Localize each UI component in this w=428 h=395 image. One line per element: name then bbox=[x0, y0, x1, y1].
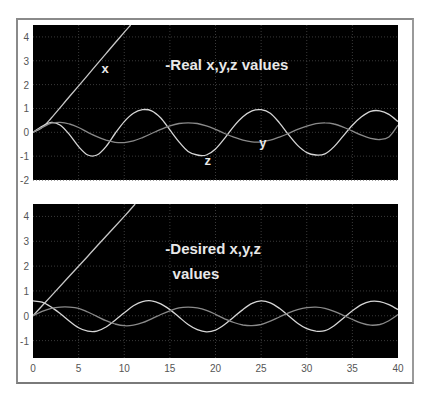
annotation-label: x bbox=[101, 61, 109, 76]
y-tick-label: 0 bbox=[23, 127, 29, 138]
y-tick-label: 1 bbox=[23, 103, 29, 114]
y-tick-label: 1 bbox=[23, 286, 29, 297]
subplot-1: -2-101234-Real x,y,z valuesxyz bbox=[20, 25, 398, 186]
x-tick-label: 20 bbox=[210, 363, 222, 374]
y-tick-label: -1 bbox=[20, 336, 29, 347]
y-tick-label: 2 bbox=[23, 80, 29, 91]
x-tick-label: 5 bbox=[76, 363, 82, 374]
y-tick-label: 4 bbox=[23, 211, 29, 222]
x-tick-label: 25 bbox=[256, 363, 268, 374]
x-tick-label: 35 bbox=[347, 363, 359, 374]
plot-area bbox=[33, 25, 398, 180]
y-tick-label: 4 bbox=[23, 32, 29, 43]
y-tick-label: 3 bbox=[23, 236, 29, 247]
y-tick-label: 2 bbox=[23, 261, 29, 272]
x-tick-label: 40 bbox=[392, 363, 404, 374]
y-tick-label: -2 bbox=[20, 175, 29, 186]
chart-canvas: -2-101234-Real x,y,z valuesxyz-101234051… bbox=[0, 0, 428, 395]
annotation-label: -Real x,y,z values bbox=[165, 56, 288, 73]
y-tick-label: 0 bbox=[23, 311, 29, 322]
annotation-label: -Desired x,y,z bbox=[165, 240, 261, 257]
x-tick-label: 30 bbox=[301, 363, 313, 374]
x-tick-label: 15 bbox=[164, 363, 176, 374]
y-tick-label: -1 bbox=[20, 151, 29, 162]
x-tick-label: 0 bbox=[30, 363, 36, 374]
x-tick-label: 10 bbox=[119, 363, 131, 374]
annotation-label: y bbox=[259, 135, 267, 150]
annotation-label: values bbox=[173, 265, 220, 282]
annotation-label: z bbox=[205, 153, 212, 168]
y-tick-label: 3 bbox=[23, 56, 29, 67]
subplot-2: -1012340510152025303540-Desired x,y,zval… bbox=[20, 204, 404, 374]
